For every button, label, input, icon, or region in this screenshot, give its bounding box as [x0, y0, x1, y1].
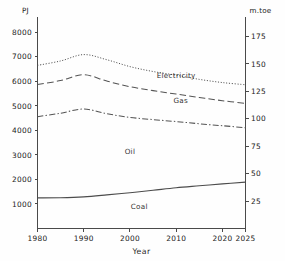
- x-tick-label: 2000: [120, 234, 140, 243]
- y-tick-label: 4000: [12, 126, 32, 135]
- y-axis-unit-text: PJ: [22, 6, 29, 15]
- y2-tick-label: 50: [251, 169, 261, 178]
- y-tick-label: 7000: [12, 52, 32, 61]
- series-line-electricity: [38, 55, 246, 85]
- series-label-gas: Gas: [173, 96, 188, 105]
- series-label-electricity: Electricity: [157, 71, 196, 80]
- labels-group: PJm.toeYearCoalOilGasElectricity: [22, 6, 272, 256]
- y-tick-label: 2000: [12, 175, 32, 184]
- x-tick-label: 2010: [166, 234, 186, 243]
- series-line-oil: [38, 109, 246, 128]
- axes-group: [38, 17, 246, 229]
- x-tick-label: 2020: [212, 234, 232, 243]
- series-line-coal: [38, 182, 246, 198]
- x-tick-label: 1990: [74, 234, 94, 243]
- series-label-coal: Coal: [131, 202, 148, 211]
- y-tick-label: 1000: [12, 200, 32, 209]
- series-label-oil: Oil: [125, 147, 136, 156]
- y2-tick-label: 25: [251, 197, 261, 206]
- y2-tick-label: 150: [251, 60, 266, 69]
- y2-tick-label: 100: [251, 114, 266, 123]
- y-tick-label: 8000: [12, 28, 32, 37]
- y2-tick-label: 125: [251, 87, 266, 96]
- x-axis-title-text: Year: [131, 247, 151, 256]
- x-tick-label: 2025: [235, 234, 255, 243]
- y-tick-label: 5000: [12, 102, 32, 111]
- y-tick-label: 3000: [12, 151, 32, 160]
- series-group: [38, 55, 246, 198]
- x-tick-label: 1980: [27, 234, 47, 243]
- y-tick-label: 6000: [12, 77, 32, 86]
- energy-consumption-chart: 1000200030004000500060007000800025507510…: [0, 0, 285, 261]
- y2-tick-label: 75: [251, 142, 261, 151]
- chart-canvas: 1000200030004000500060007000800025507510…: [0, 0, 285, 261]
- y2-tick-label: 175: [251, 32, 266, 41]
- y2-axis-unit-text: m.toe: [250, 6, 272, 15]
- series-line-gas: [38, 75, 246, 104]
